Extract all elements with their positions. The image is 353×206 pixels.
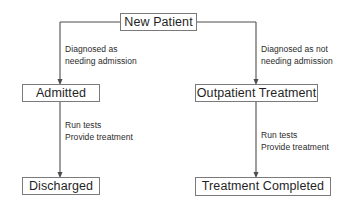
edge-label-left-process-line1: Run tests: [65, 120, 133, 132]
edge-label-left-process-line2: Provide treatment: [65, 132, 133, 144]
edge-label-right-branch: Diagnosed as not needing admission: [261, 44, 333, 67]
edge-label-left-branch-line1: Diagnosed as: [65, 44, 137, 56]
edge-label-left-process: Run tests Provide treatment: [65, 120, 133, 143]
node-new-patient[interactable]: New Patient: [120, 13, 197, 31]
edge-label-right-branch-line1: Diagnosed as not: [261, 44, 333, 56]
edge-label-right-branch-line2: needing admission: [261, 56, 333, 68]
node-outpatient-treatment[interactable]: Outpatient Treatment: [195, 84, 318, 102]
edge-label-left-branch: Diagnosed as needing admission: [65, 44, 137, 67]
node-admitted[interactable]: Admitted: [22, 84, 100, 102]
edge-label-left-branch-line2: needing admission: [65, 56, 137, 68]
node-treatment-completed[interactable]: Treatment Completed: [195, 177, 331, 196]
edge-label-right-process-line2: Provide treatment: [261, 142, 329, 154]
edge-label-right-process: Run tests Provide treatment: [261, 130, 329, 153]
edge-label-right-process-line1: Run tests: [261, 130, 329, 142]
node-discharged[interactable]: Discharged: [22, 177, 100, 195]
